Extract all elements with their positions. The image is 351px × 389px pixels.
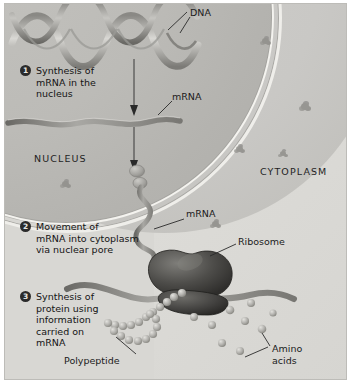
diagram-plate: DNA mRNA NUCLEUS CYTOPLASM mRNA Ribosome… (4, 3, 347, 380)
protein-synthesis-diagram: DNA mRNA NUCLEUS CYTOPLASM mRNA Ribosome… (0, 0, 351, 389)
figure-border (4, 3, 347, 380)
